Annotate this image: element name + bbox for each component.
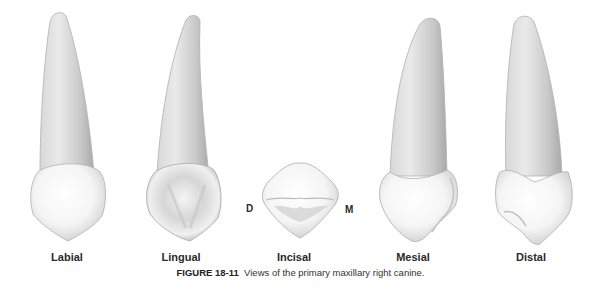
figure-number: FIGURE 18-11 (177, 267, 239, 278)
tooth-labial-view (31, 13, 106, 241)
view-label-incisal: Incisal (277, 251, 311, 263)
distal-orientation-label: D (246, 203, 253, 214)
view-label-labial: Labial (51, 251, 83, 263)
tooth-incisal-view (262, 163, 338, 238)
mesial-orientation-label: M (345, 204, 353, 215)
view-label-distal: Distal (516, 251, 546, 263)
figure-caption: FIGURE 18-11 Views of the primary maxill… (0, 267, 601, 278)
tooth-distal-view (496, 16, 573, 244)
tooth-mesial-view (379, 18, 457, 241)
view-label-lingual: Lingual (161, 251, 200, 263)
tooth-views-illustration (0, 0, 601, 250)
tooth-lingual-view (147, 15, 221, 241)
figure-caption-text: Views of the primary maxillary right can… (244, 267, 424, 278)
view-label-mesial: Mesial (396, 251, 430, 263)
